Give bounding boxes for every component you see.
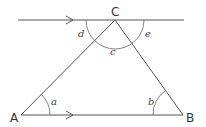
side-ac [21, 20, 115, 115]
vertex-label-c: C [111, 5, 119, 19]
angle-arc-c [86, 20, 144, 49]
vertex-label-b: B [186, 111, 194, 125]
angle-label-a: a [51, 96, 57, 107]
angle-label-d: d [78, 28, 84, 39]
angle-label-b: b [148, 96, 154, 107]
angle-arc-b [153, 91, 166, 115]
angle-label-e: e [145, 28, 151, 39]
angle-arc-a [41, 94, 50, 115]
angle-label-c: c [110, 46, 116, 57]
vertex-label-a: A [10, 111, 19, 125]
triangle-diagram: C A B a b c d e [0, 0, 206, 127]
